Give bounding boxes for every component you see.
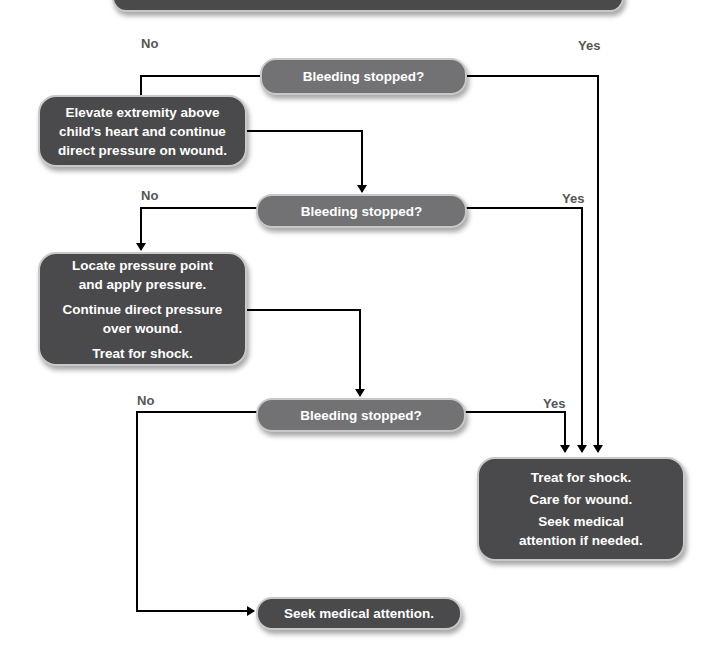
- yes-label: Yes: [562, 191, 584, 206]
- step-pressure-point-box: Locate pressure point and apply pressure…: [38, 252, 247, 366]
- step-line: Treat for shock.: [92, 344, 193, 363]
- outcome-line: Treat for shock.: [531, 468, 632, 487]
- decision-label: Bleeding stopped?: [303, 69, 425, 84]
- step-line: Continue direct pressure: [63, 300, 223, 319]
- step-line: over wound.: [103, 319, 183, 338]
- decision-label: Bleeding stopped?: [301, 204, 423, 219]
- top-step-box: [112, 0, 624, 12]
- outcome-line: Care for wound.: [530, 490, 633, 509]
- no-label: No: [141, 188, 158, 203]
- step-line: Elevate extremity above: [66, 103, 220, 122]
- outcome-treat-and-care-box: Treat for shock. Care for wound. Seek me…: [477, 457, 685, 561]
- outcome-line: attention if needed.: [519, 531, 643, 550]
- no-label: No: [141, 36, 158, 51]
- no-label: No: [137, 393, 154, 408]
- yes-label: Yes: [543, 396, 565, 411]
- outcome-line: Seek medical: [538, 512, 624, 531]
- outcome-label: Seek medical attention.: [284, 606, 434, 621]
- yes-label: Yes: [578, 38, 600, 53]
- step-line: child’s heart and continue: [59, 122, 226, 141]
- decision-bleeding-stopped-3: Bleeding stopped?: [256, 398, 466, 432]
- decision-bleeding-stopped-1: Bleeding stopped?: [260, 58, 467, 95]
- step-line: direct pressure on wound.: [58, 141, 227, 160]
- decision-label: Bleeding stopped?: [300, 408, 422, 423]
- step-line: Locate pressure point: [72, 256, 213, 275]
- step-elevate-box: Elevate extremity above child’s heart an…: [38, 95, 247, 167]
- step-line: and apply pressure.: [79, 275, 207, 294]
- decision-bleeding-stopped-2: Bleeding stopped?: [256, 194, 467, 228]
- outcome-seek-medical-attention: Seek medical attention.: [256, 597, 462, 630]
